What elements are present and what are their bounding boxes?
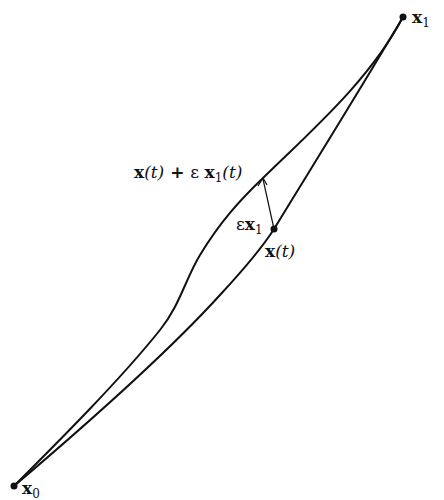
label-xt-arg: (t) <box>275 241 295 261</box>
label-perturbed: x(t) + ε x1(t) <box>134 164 242 184</box>
label-xt: x(t) <box>265 243 295 260</box>
perturbed-arg1: (t) <box>144 162 164 182</box>
diagram-canvas <box>0 0 444 500</box>
curve-perturbed <box>14 17 403 486</box>
perturbed-plus: + <box>164 162 190 182</box>
eps-sub: 1 <box>255 223 263 237</box>
point-x0 <box>11 483 18 490</box>
label-x1-main: x <box>412 7 422 27</box>
label-x0: x0 <box>22 480 40 500</box>
point-x1 <box>400 14 407 21</box>
perturbed-arg2: (t) <box>222 162 242 182</box>
label-eps-x1: εx1 <box>236 216 263 236</box>
perturbed-x1: x <box>205 162 215 182</box>
point-xt <box>271 226 278 233</box>
perturbed-x: x <box>134 162 144 182</box>
eps-symbol: ε <box>236 214 245 234</box>
variation-arrow <box>263 179 274 229</box>
label-x0-sub: 0 <box>32 487 40 500</box>
perturbed-eps: ε <box>190 162 204 182</box>
label-x0-main: x <box>22 478 32 498</box>
curve-x-t <box>14 17 403 486</box>
label-x1: x1 <box>412 9 430 29</box>
variation-diagram: x1 x0 x(t) x(t) + ε x1(t) εx1 <box>0 0 444 500</box>
eps-x: x <box>245 214 255 234</box>
label-x1-sub: 1 <box>422 16 430 30</box>
label-xt-main: x <box>265 241 275 261</box>
